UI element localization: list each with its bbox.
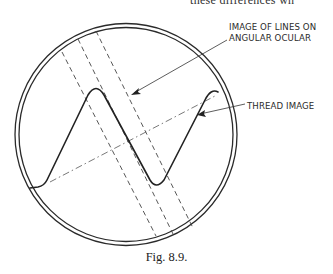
- label-thread-image: THREAD IMAGE: [247, 101, 314, 112]
- leader-lines-ocular: [131, 40, 227, 95]
- label-image-of-lines-line1: IMAGE OF LINES ON: [229, 22, 316, 33]
- label-image-of-lines-line2: ANGULAR OCULAR: [229, 33, 316, 44]
- thread-axis: [50, 96, 215, 182]
- angular-ocular-lines: [62, 31, 193, 236]
- figure-caption: Fig. 8.9.: [0, 250, 333, 265]
- leader-thread-image: [197, 104, 245, 117]
- label-image-of-lines: IMAGE OF LINES ON ANGULAR OCULAR: [229, 22, 316, 44]
